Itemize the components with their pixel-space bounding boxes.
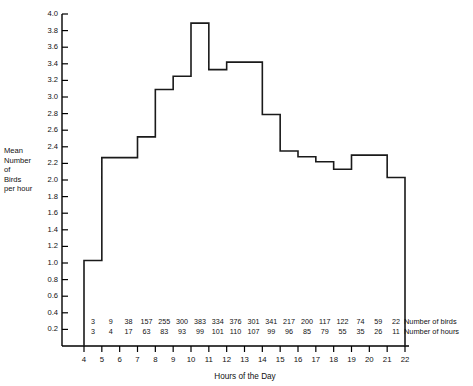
x-tick-label-11: 11 [205,355,213,364]
y-tick-label-3.8: 3.8 [47,26,58,35]
x-tick-label-19: 19 [347,355,356,364]
annotation-birds-20: 59 [374,317,382,326]
y-tick-label-2.8: 2.8 [47,109,58,118]
annotation-hours-15: 96 [285,327,293,336]
y-tick-label-1.4: 1.4 [47,225,58,234]
x-tick-label-20: 20 [365,355,374,364]
x-tick-label-21: 21 [383,355,392,364]
annotation-hours-4: 3 [91,327,95,336]
annotation-hours-10: 99 [196,327,204,336]
annotation-birds-7: 157 [140,317,152,326]
x-tick-label-9: 9 [171,355,175,364]
annotation-birds-8: 255 [158,317,170,326]
annotation-birds-11: 334 [212,317,224,326]
annotation-birds-21: 22 [392,317,400,326]
annotation-hours-13: 107 [247,327,259,336]
y-tick-label-1.0: 1.0 [47,258,58,267]
y-tick-label-4.0: 4.0 [47,9,58,18]
annotation-hours-20: 26 [374,327,382,336]
x-tick-label-16: 16 [294,355,303,364]
y-tick-label-3.2: 3.2 [47,75,58,84]
annotation-birds-9: 300 [176,317,188,326]
x-tick-label-6: 6 [117,355,121,364]
annotation-hours-9: 93 [178,327,186,336]
y-tick-label-0.2: 0.2 [47,324,58,333]
annotation-hours-6: 17 [125,327,133,336]
y-axis-title-line-0: Mean [4,146,54,156]
bird-activity-step-chart: Mean Number of Birds per hour 0.20.40.60… [0,0,473,386]
side-note-hours: Number of hours [404,327,459,336]
annotation-hours-17: 79 [321,327,329,336]
y-axis-title-line-2: of [4,165,54,175]
x-tick-label-13: 13 [240,355,249,364]
annotation-row-hours: 3417638393991011101079996857955352611 [91,327,400,336]
y-tick-label-0.6: 0.6 [47,291,58,300]
annotation-hours-16: 85 [303,327,311,336]
x-tick-label-18: 18 [329,355,338,364]
y-axis-title-line-3: Birds [4,175,54,185]
x-tick-label-14: 14 [258,355,267,364]
y-tick-label-1.6: 1.6 [47,208,58,217]
annotation-birds-19: 74 [356,317,364,326]
y-tick-label-0.8: 0.8 [47,275,58,284]
x-tick-label-17: 17 [311,355,320,364]
step-series-mean-birds [84,23,405,346]
annotation-birds-4: 3 [91,317,95,326]
x-tick-label-7: 7 [135,355,139,364]
y-tick-label-1.2: 1.2 [47,241,58,250]
y-tick-label-3.4: 3.4 [47,59,58,68]
x-tick-label-4: 4 [82,355,87,364]
annotation-hours-5: 4 [109,327,113,336]
x-axis-ticks: 45678910111213141516171819202122 [82,346,410,364]
y-tick-label-3.6: 3.6 [47,42,58,51]
annotation-birds-15: 217 [283,317,295,326]
x-tick-label-22: 22 [401,355,410,364]
x-tick-label-15: 15 [276,355,285,364]
annotation-birds-5: 9 [109,317,113,326]
annotation-birds-13: 301 [247,317,259,326]
annotation-hours-11: 101 [212,327,224,336]
x-tick-label-12: 12 [222,355,231,364]
annotation-hours-18: 55 [339,327,347,336]
x-tick-label-8: 8 [153,355,157,364]
annotation-birds-16: 200 [301,317,313,326]
annotation-birds-6: 38 [125,317,133,326]
y-axis-title: Mean Number of Birds per hour [4,146,54,194]
annotation-birds-17: 117 [319,317,330,326]
x-tick-label-5: 5 [100,355,105,364]
annotation-birds-18: 122 [337,317,349,326]
y-tick-label-3.0: 3.0 [47,92,58,101]
annotation-birds-14: 341 [265,317,277,326]
annotation-hours-14: 99 [267,327,275,336]
x-tick-label-10: 10 [187,355,196,364]
annotation-hours-8: 83 [160,327,168,336]
side-note-birds: Number of birds [404,317,457,326]
annotation-row-birds: 3938157255300383334376301341217200117122… [91,317,400,326]
x-axis-title: Hours of the Day [214,372,276,381]
annotation-hours-19: 35 [356,327,364,336]
y-tick-label-2.6: 2.6 [47,125,58,134]
y-tick-label-0.4: 0.4 [47,308,58,317]
y-axis-title-line-4: per hour [4,184,54,194]
y-axis-title-line-1: Number [4,156,54,166]
chart-canvas: 0.20.40.60.81.01.21.41.61.82.02.22.42.62… [0,0,473,386]
annotation-hours-21: 11 [392,327,399,336]
annotation-hours-12: 110 [230,327,241,336]
annotation-birds-12: 376 [230,317,242,326]
annotation-birds-10: 383 [194,317,206,326]
annotation-hours-7: 63 [142,327,150,336]
